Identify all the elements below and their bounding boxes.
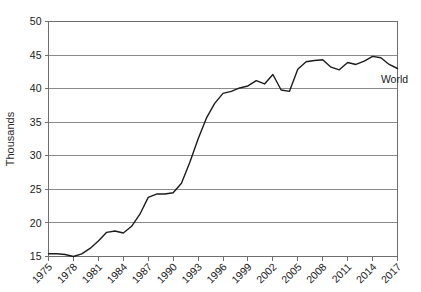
- x-tick-label: 2017: [378, 260, 403, 285]
- x-tick-label: 1987: [129, 260, 154, 285]
- y-tick-label: 20: [30, 217, 42, 229]
- x-tick-label: 1984: [104, 260, 129, 285]
- x-tick-label: 1996: [204, 260, 229, 285]
- y-tick-label: 50: [30, 15, 42, 27]
- x-tick-label: 1981: [79, 260, 104, 285]
- y-tick-label: 25: [30, 183, 42, 195]
- x-tick-label: 1990: [154, 260, 179, 285]
- x-tick-label: 1975: [29, 260, 54, 285]
- x-tick-label: 1993: [179, 260, 204, 285]
- series-label-world: World: [381, 73, 408, 85]
- data-line-world: [49, 56, 398, 256]
- x-tick-label: 2011: [329, 260, 354, 285]
- y-tick-label: 45: [30, 49, 42, 61]
- x-tick-label: 2008: [304, 260, 329, 285]
- y-tick-label: 15: [30, 250, 42, 262]
- line-chart: 1520253035404550197519781981198419871990…: [0, 0, 421, 292]
- x-tick-label: 1999: [229, 260, 254, 285]
- chart-container: 1520253035404550197519781981198419871990…: [0, 0, 421, 292]
- y-tick-label: 30: [30, 149, 42, 161]
- plot-frame: [49, 22, 398, 257]
- x-tick-label: 2014: [353, 260, 378, 285]
- y-tick-label: 35: [30, 116, 42, 128]
- y-tick-label: 40: [30, 82, 42, 94]
- y-axis-title: Thousands: [4, 111, 16, 166]
- x-tick-label: 2005: [279, 260, 304, 285]
- x-tick-label: 2002: [254, 260, 279, 285]
- x-tick-label: 1978: [54, 260, 79, 285]
